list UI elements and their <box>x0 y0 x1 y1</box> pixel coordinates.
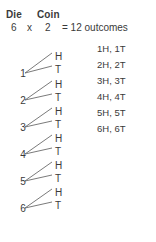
die-node: 4 <box>18 149 28 160</box>
coin-leaf-node: T <box>55 64 67 75</box>
coin-leaf-node: T <box>55 173 67 184</box>
coin-leaf-node: T <box>55 119 67 130</box>
coin-leaf-node: H <box>55 133 67 144</box>
outcome-item: 6H, 6T <box>97 123 126 134</box>
outcome-item: 2H, 2T <box>97 59 126 70</box>
probability-tree-diagram: Die Coin 6 x 2 = 12 outcomes 123456HTHTH… <box>0 0 156 242</box>
outcome-item: 5H, 5T <box>97 107 126 118</box>
coin-leaf-node: T <box>55 92 67 103</box>
coin-leaf-node: T <box>55 146 67 157</box>
coin-leaf-node: H <box>55 160 67 171</box>
coin-leaf-node: H <box>55 79 67 90</box>
die-node: 2 <box>18 95 28 106</box>
outcome-item: 3H, 3T <box>97 75 126 86</box>
die-node: 5 <box>18 176 28 187</box>
coin-leaf-node: H <box>55 106 67 117</box>
die-node: 3 <box>18 122 28 133</box>
coin-leaf-node: H <box>55 51 67 62</box>
die-node: 6 <box>18 203 28 214</box>
outcome-item: 1H, 1T <box>97 43 126 54</box>
tree-branch <box>25 53 52 73</box>
coin-leaf-node: T <box>55 200 67 211</box>
coin-leaf-node: H <box>55 187 67 198</box>
die-node: 1 <box>18 68 28 79</box>
outcome-item: 4H, 4T <box>97 91 126 102</box>
